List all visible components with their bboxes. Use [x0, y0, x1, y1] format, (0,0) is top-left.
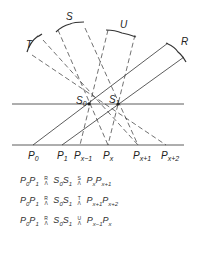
equation-1: P0P1 RΛ S0S1 SΛ PxPx+1	[20, 175, 111, 187]
label-r: R	[181, 36, 188, 47]
brace-s	[56, 22, 84, 32]
label-p1: P1	[57, 150, 68, 162]
equation-2: P0P1 RΛ S0S1 TΛ Px+1Px+2	[20, 195, 118, 207]
point-s0	[88, 103, 91, 106]
label-px-1: Px−1	[74, 150, 92, 162]
label-p0: P0	[28, 150, 39, 162]
label-t: T	[26, 39, 33, 50]
brace-u	[106, 30, 136, 37]
label-u: U	[120, 19, 128, 30]
beam-r-1	[33, 43, 168, 145]
beam-t-1	[43, 40, 138, 145]
label-s1: S1	[109, 94, 120, 106]
label-s0: S0	[76, 95, 87, 107]
label-px+1: Px+1	[133, 150, 151, 162]
equation-3: P0P1 RΛ S0S1 UΛ Px−1Px	[20, 215, 112, 227]
label-px: Px	[103, 150, 114, 162]
label-s: S	[66, 11, 73, 22]
label-px+2: Px+2	[161, 150, 179, 162]
